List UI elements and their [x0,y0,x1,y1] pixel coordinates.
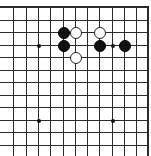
grid-line-horizontal [0,107,149,108]
black-stone[interactable] [94,40,106,52]
white-stone[interactable] [70,27,82,39]
black-stone[interactable] [58,40,70,52]
black-stone[interactable] [119,40,131,52]
star-point [37,119,41,123]
white-stone[interactable] [94,27,106,39]
grid-line-horizontal [0,132,149,133]
grid-line-horizontal [0,120,149,121]
grid-line-horizontal [0,82,149,83]
grid-line-horizontal [0,95,149,96]
grid-line-horizontal [0,20,149,21]
grid-line-horizontal [0,6,149,8]
star-point [111,44,115,48]
grid-line-horizontal [0,145,149,146]
black-stone[interactable] [58,27,70,39]
go-board[interactable] [0,0,151,156]
grid-line-horizontal [0,70,149,71]
star-point [111,119,115,123]
star-point [37,44,41,48]
white-stone[interactable] [70,52,82,64]
